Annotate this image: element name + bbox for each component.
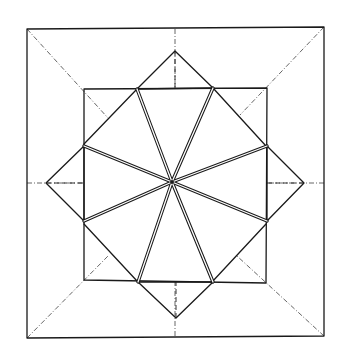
spoke-inner xyxy=(84,182,172,221)
crease-line xyxy=(240,27,324,115)
spoke-inner xyxy=(138,182,172,282)
crease-line xyxy=(237,256,324,336)
corner-fold-line xyxy=(212,224,266,282)
crease-line xyxy=(27,256,108,338)
center-point xyxy=(170,180,174,184)
crease-line xyxy=(27,29,108,118)
crease-pattern-diagram xyxy=(0,0,338,361)
corner-fold-line xyxy=(213,88,266,146)
corner-fold-line xyxy=(84,89,137,144)
